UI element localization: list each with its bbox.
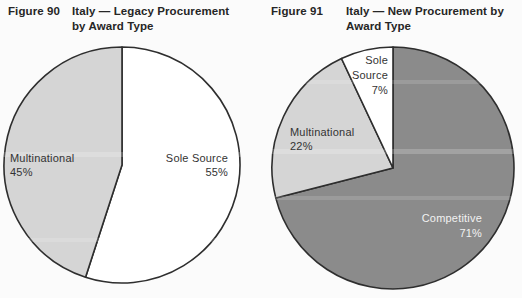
- slice-label-name: Sole Source: [166, 151, 228, 165]
- slice-label-value: 55%: [166, 165, 228, 179]
- figure-90-header: Figure 90 Italy — Legacy Procurement by …: [0, 4, 261, 34]
- slice-label-name: Multinational: [10, 151, 74, 165]
- slice-label-multinational: Multinational 22%: [290, 125, 354, 153]
- slice-label-value: 7%: [352, 83, 388, 98]
- figure-91-title-line1: Italy — New Procurement by: [346, 5, 504, 17]
- figure-91-title: Italy — New Procurement by Award Type: [346, 4, 504, 34]
- pie-chart-new-procurement: [270, 45, 516, 291]
- figure-91-label: Figure 91: [271, 4, 346, 34]
- scanned-report-page: Figure 90 Italy — Legacy Procurement by …: [0, 0, 522, 298]
- slice-label-name: Sole: [352, 53, 388, 68]
- slice-label-multinational: Multinational 45%: [10, 151, 74, 179]
- slice-label-value: 22%: [290, 139, 354, 153]
- slice-label-value: 71%: [422, 226, 482, 241]
- figure-91-header: Figure 91 Italy — New Procurement by Awa…: [261, 4, 522, 34]
- figure-91-title-line2: Award Type: [346, 20, 411, 32]
- slice-label-sole-source: Sole Source 7%: [352, 53, 388, 98]
- figure-90-label: Figure 90: [8, 4, 72, 34]
- figure-91-new-procurement: Figure 91 Italy — New Procurement by Awa…: [261, 0, 522, 298]
- slice-label-competitive: Competitive 71%: [422, 211, 482, 241]
- figure-90-legacy-procurement: Figure 90 Italy — Legacy Procurement by …: [0, 0, 261, 298]
- figure-90-title-line2: by Award Type: [72, 20, 154, 32]
- slice-label-value: 45%: [10, 165, 74, 179]
- slice-label-name: Source: [352, 68, 388, 83]
- figure-90-title-line1: Italy — Legacy Procurement: [72, 5, 229, 17]
- slice-label-name: Competitive: [422, 211, 482, 226]
- slice-label-sole-source: Sole Source 55%: [166, 151, 228, 179]
- figure-90-title: Italy — Legacy Procurement by Award Type: [72, 4, 229, 34]
- slice-label-name: Multinational: [290, 125, 354, 139]
